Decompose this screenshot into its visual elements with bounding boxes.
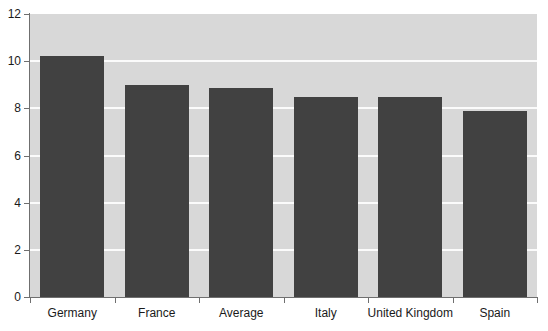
y-tick-mark-12 — [24, 14, 30, 15]
x-tick-label-germany: Germany — [48, 306, 97, 320]
x-tick-mark-2 — [199, 298, 200, 303]
x-tick-label-france: France — [138, 306, 175, 320]
x-tick-mark-4 — [368, 298, 369, 303]
y-tick-mark-4 — [24, 203, 30, 204]
y-tick-label-2: 2 — [14, 244, 21, 256]
bar-france[interactable] — [125, 85, 189, 297]
bars-group — [30, 14, 537, 297]
x-tick-label-average: Average — [219, 306, 263, 320]
y-tick-label-12: 12 — [8, 8, 21, 20]
x-tick-mark-1 — [115, 298, 116, 303]
y-tick-label-8: 8 — [14, 102, 21, 114]
y-tick-label-6: 6 — [14, 150, 21, 162]
x-tick-label-italy: Italy — [315, 306, 337, 320]
x-tick-label-spain: Spain — [479, 306, 510, 320]
y-tick-label-0: 0 — [14, 291, 21, 303]
y-tick-mark-8 — [24, 108, 30, 109]
bar-united-kingdom[interactable] — [378, 97, 442, 297]
bar-average[interactable] — [209, 88, 273, 297]
x-tick-mark-6 — [537, 298, 538, 303]
bar-spain[interactable] — [463, 111, 527, 297]
bar-germany[interactable] — [40, 56, 104, 297]
bar-italy[interactable] — [294, 97, 358, 297]
y-tick-mark-2 — [24, 250, 30, 251]
x-tick-label-united-kingdom: United Kingdom — [368, 306, 453, 320]
bar-chart: 024681012 GermanyFranceAverageItalyUnite… — [0, 0, 548, 331]
plot-area — [30, 14, 537, 297]
y-tick-mark-10 — [24, 61, 30, 62]
y-tick-mark-6 — [24, 156, 30, 157]
x-tick-mark-5 — [453, 298, 454, 303]
x-tick-mark-0 — [30, 298, 31, 303]
y-tick-label-4: 4 — [14, 197, 21, 209]
x-tick-mark-3 — [284, 298, 285, 303]
y-tick-label-10: 10 — [8, 55, 21, 67]
